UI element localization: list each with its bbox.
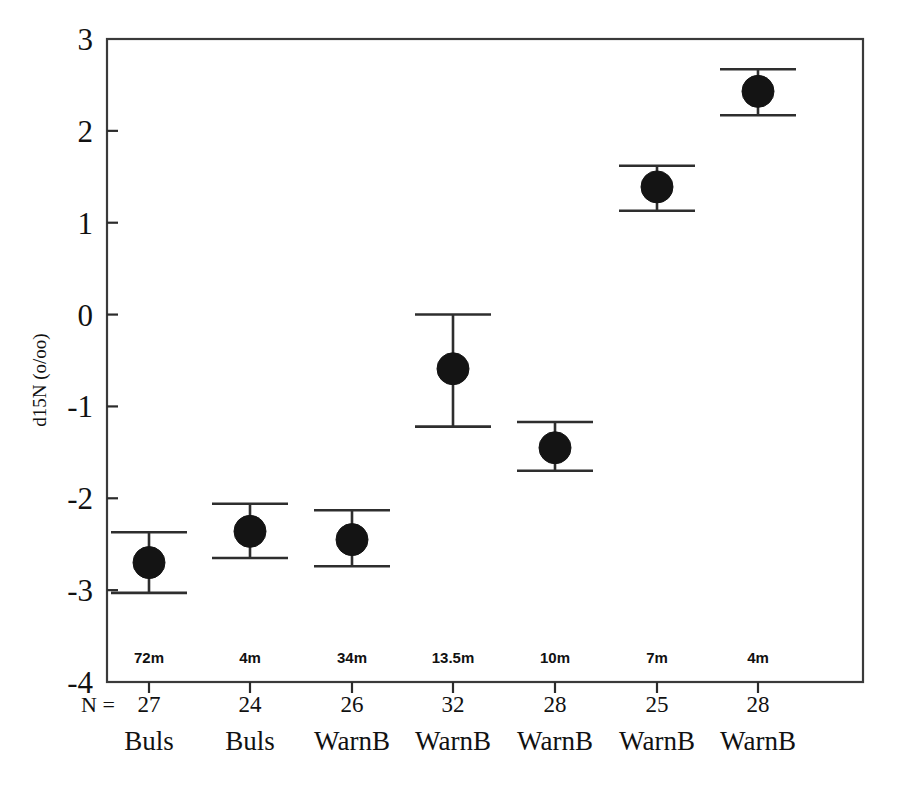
category-label: Buls <box>225 726 275 756</box>
y-tick-label: 0 <box>78 298 94 333</box>
data-point-group <box>111 532 187 593</box>
data-point-marker <box>234 515 266 547</box>
data-point-group <box>415 315 491 427</box>
n-value: 27 <box>138 692 161 717</box>
data-point-group <box>517 422 593 471</box>
category-label: WarnB <box>415 726 491 756</box>
y-tick-label: -1 <box>67 389 93 424</box>
y-axis: 3210-1-2-3-4 <box>67 22 118 700</box>
n-value: 26 <box>341 692 364 717</box>
depth-label: 4m <box>239 649 261 666</box>
data-point-group <box>314 510 390 566</box>
scatter-plot-with-error-bars: 3210-1-2-3-4 d15N (o/oo) 72m4m34m13.5m10… <box>0 0 898 786</box>
n-values: 27242632282528 <box>138 692 770 717</box>
data-point-marker <box>437 353 469 385</box>
category-label: WarnB <box>517 726 593 756</box>
y-tick-label: -2 <box>67 481 93 516</box>
depth-label: 72m <box>134 649 164 666</box>
data-point-group <box>212 504 288 558</box>
n-value: 28 <box>544 692 567 717</box>
category-label: WarnB <box>619 726 695 756</box>
data-point-marker <box>742 75 774 107</box>
n-value: 25 <box>646 692 669 717</box>
depth-label: 10m <box>540 649 570 666</box>
y-axis-title: d15N (o/oo) <box>29 333 51 426</box>
data-point-group <box>720 69 796 115</box>
depth-label: 13.5m <box>432 649 475 666</box>
category-label: WarnB <box>314 726 390 756</box>
data-point-marker <box>539 432 571 464</box>
y-tick-label: -3 <box>67 573 93 608</box>
n-value: 24 <box>239 692 263 717</box>
plot-frame <box>107 39 863 682</box>
category-label: Buls <box>124 726 174 756</box>
depth-label: 4m <box>747 649 769 666</box>
depth-label: 7m <box>646 649 668 666</box>
category-labels: BulsBulsWarnBWarnBWarnBWarnBWarnB <box>124 726 796 756</box>
n-equals-label: N = <box>81 692 115 717</box>
y-tick-label: 1 <box>78 206 94 241</box>
data-point-marker <box>336 524 368 556</box>
n-value: 28 <box>747 692 770 717</box>
category-label: WarnB <box>720 726 796 756</box>
n-value: 32 <box>442 692 465 717</box>
data-series <box>111 69 796 593</box>
y-tick-label: 3 <box>78 22 94 57</box>
data-point-group <box>619 166 695 211</box>
chart-figure: 3210-1-2-3-4 d15N (o/oo) 72m4m34m13.5m10… <box>0 0 898 786</box>
depth-labels: 72m4m34m13.5m10m7m4m <box>134 649 769 666</box>
data-point-marker <box>133 547 165 579</box>
y-tick-label: 2 <box>78 114 94 149</box>
data-point-marker <box>641 171 673 203</box>
depth-label: 34m <box>337 649 367 666</box>
